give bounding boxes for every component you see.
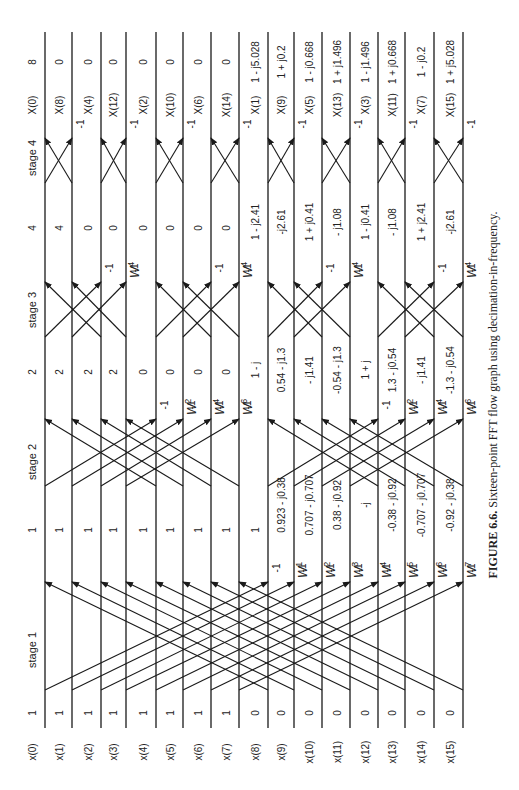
input-label: x(6): [193, 743, 204, 760]
input-value: 0: [445, 710, 456, 716]
stage3-value: 1 - j0.41: [360, 203, 371, 240]
stage3-value: 0: [83, 225, 94, 231]
output-value: 1 - j0.668: [304, 41, 315, 83]
stage2-value: 2: [54, 369, 65, 375]
minus-one-label: -1: [75, 119, 86, 128]
stage2-value: 0: [193, 369, 204, 375]
stage3-value: - j1.08: [387, 208, 398, 236]
input-value: 1: [138, 710, 149, 716]
twiddle-label: W6: [463, 399, 479, 415]
stage2-value: 2: [27, 369, 38, 375]
stage3-value: 0: [221, 225, 232, 231]
minus-one-label: -1: [104, 263, 115, 272]
stage1-value: 0.707 - j0.707: [304, 474, 315, 536]
stage1-value: 1: [83, 527, 94, 533]
stage3-value: 4: [27, 225, 38, 231]
output-value: 1 - j1.496: [360, 41, 371, 83]
stage1-value: 0.923 - j0.38: [276, 477, 287, 533]
fft-flow-graph: -1-1-1-1-1-1-1-1-1-1-1-1-1-1-1-1-1-1-1-1…: [0, 0, 519, 790]
output-label: X(7): [416, 96, 427, 115]
output-value: 1 - j0.2: [416, 46, 427, 77]
stage2-value: - j1.41: [304, 356, 315, 384]
input-value: 0: [416, 710, 427, 716]
output-value: 1 + j1.496: [332, 39, 343, 84]
figure-caption: FIGURE 6.6. Sixteen-point FFT flow graph…: [486, 212, 500, 579]
input-value: 0: [250, 710, 261, 716]
stage3-value: 1 + j2.41: [416, 202, 427, 241]
stage1-value: 1: [108, 527, 119, 533]
output-label: X(0): [27, 96, 38, 115]
input-label: x(10): [304, 741, 315, 764]
output-value: 1 - j5.028: [250, 41, 261, 83]
twiddle-label: W4: [239, 262, 255, 278]
minus-one-label: -1: [159, 400, 170, 409]
output-value: 1 + j0.2: [276, 45, 287, 79]
twiddle-label: W4: [434, 399, 450, 415]
minus-one-label: -1: [297, 119, 308, 128]
stage1-value: -0.707 - j0.707: [416, 472, 427, 537]
twiddle-label: W7: [463, 562, 479, 578]
twiddle-label: W3: [350, 562, 366, 578]
twiddle-label: W4: [126, 262, 142, 278]
input-value: 0: [276, 710, 287, 716]
input-value: 0: [304, 710, 315, 716]
minus-one-label: -1: [437, 263, 448, 272]
stage3-value: 0: [193, 225, 204, 231]
output-value: 1 + j5.028: [445, 39, 456, 84]
stage1-value: 1: [54, 527, 65, 533]
stage2-value: 1 - j: [250, 362, 261, 379]
output-label: X(14): [221, 93, 232, 117]
stage2-value: 0: [138, 369, 149, 375]
twiddle-label: W2: [183, 399, 199, 415]
output-label: X(8): [54, 96, 65, 115]
stage3-value: -j2.61: [445, 209, 456, 234]
input-label: x(2): [83, 743, 94, 760]
stage3-value: - j1.08: [332, 208, 343, 236]
minus-one-label: -1: [186, 119, 197, 128]
twiddle-label: W4: [378, 562, 394, 578]
stage2-value: 1 + j: [360, 360, 371, 379]
stage2-value: 2: [108, 369, 119, 375]
stage1-value: -0.38 - j0.92: [387, 478, 398, 532]
twiddle-label: W2: [322, 562, 338, 578]
output-value: 0: [83, 59, 94, 65]
input-label: x(1): [54, 743, 65, 760]
minus-one-label: -1: [381, 400, 392, 409]
stage-label: stage 2: [26, 444, 38, 480]
stage3-value: 1 + j0.41: [304, 202, 315, 241]
stage1-value: 1: [193, 527, 204, 533]
stage2-value: 0: [221, 369, 232, 375]
input-label: x(9): [276, 743, 287, 760]
stage3-value: 1 - j2.41: [250, 203, 261, 240]
twiddle-label: W6: [239, 399, 255, 415]
twiddle-label: W2: [405, 399, 421, 415]
output-value: 0: [165, 59, 176, 65]
stage3-value: -j2.61: [276, 209, 287, 234]
caption-text: Sixteen-point FFT flow graph using decim…: [486, 212, 500, 508]
stage1-value: 1: [165, 527, 176, 533]
input-value: 0: [387, 710, 398, 716]
output-label: X(5): [304, 96, 315, 115]
output-label: X(13): [332, 93, 343, 117]
stage1-value: 0.38 - j0.92: [332, 480, 343, 530]
minus-one-label: -1: [325, 263, 336, 272]
output-label: X(1): [250, 96, 261, 115]
input-label: x(4): [138, 743, 149, 760]
input-label: x(3): [108, 743, 119, 760]
stage1-value: 1: [250, 527, 261, 533]
input-value: 0: [360, 710, 371, 716]
output-value: 0: [193, 59, 204, 65]
output-value: 0: [221, 59, 232, 65]
stage2-value: -0.54 - j1.3: [332, 346, 343, 394]
output-value: 1 + j0.668: [387, 39, 398, 84]
output-label: X(9): [276, 96, 287, 115]
input-label: x(15): [445, 741, 456, 764]
stage3-value: 4: [54, 225, 65, 231]
stage2-value: 2: [83, 369, 94, 375]
twiddle-label: W4: [211, 399, 227, 415]
output-label: X(3): [360, 96, 371, 115]
minus-one-label: -1: [242, 119, 253, 128]
stage2-value: 0: [165, 369, 176, 375]
output-label: X(6): [193, 96, 204, 115]
minus-one-label: -1: [408, 119, 419, 128]
